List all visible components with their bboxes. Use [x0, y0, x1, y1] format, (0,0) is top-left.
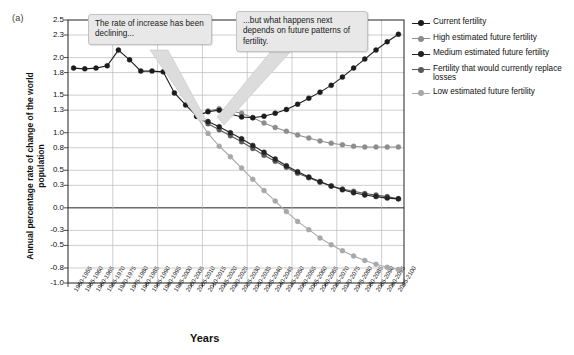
legend-label: Current fertility: [430, 17, 486, 27]
figure-population-growth-rate: (a) Annual percentage rate of change of …: [0, 0, 574, 355]
legend-marker-icon: [412, 34, 430, 44]
plot-frame: [68, 20, 404, 283]
series-line: [194, 114, 401, 202]
legend-marker-icon: [412, 88, 430, 98]
legend-item[interactable]: High estimated future fertility: [412, 33, 574, 44]
data-series: [71, 32, 401, 272]
legend-item[interactable]: Current fertility: [412, 17, 574, 28]
legend-label: Fertility that would currently replace l…: [430, 64, 574, 83]
callout-future-patterns: ...but what happens next depends on futu…: [236, 11, 368, 52]
gridlines: [68, 20, 404, 283]
legend-label: Low estimated future fertility: [430, 87, 535, 97]
legend-marker-icon: [412, 65, 430, 75]
callout-rate-decline: The rate of increase has been declining.…: [88, 14, 212, 45]
legend-item[interactable]: Low estimated future fertility: [412, 87, 574, 98]
callout-tail-right: [217, 50, 292, 125]
legend-item[interactable]: Fertility that would currently replace l…: [412, 64, 574, 83]
series-line: [194, 114, 401, 202]
legend-label: High estimated future fertility: [430, 33, 537, 43]
legend-marker-icon: [412, 18, 430, 28]
legend: Current fertilityHigh estimated future f…: [412, 17, 574, 103]
legend-item[interactable]: Medium estimated future fertility: [412, 48, 574, 59]
legend-label: Medium estimated future fertility: [430, 48, 549, 58]
legend-marker-icon: [412, 49, 430, 59]
axis-ticks: [64, 20, 404, 287]
